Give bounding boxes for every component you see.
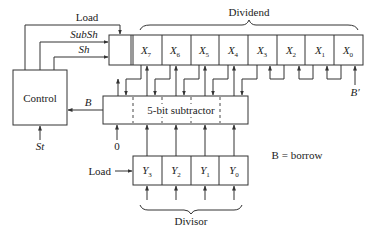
- cell-x0: X0: [342, 44, 354, 59]
- divisor-load-signal: Load: [88, 165, 132, 177]
- sh-label: Sh: [79, 43, 91, 55]
- cell-x7: X7: [140, 44, 152, 59]
- control-block: Control: [13, 70, 67, 125]
- cell-y0: Y0: [229, 164, 239, 179]
- borrow-label: B: [85, 96, 92, 108]
- dividend-register: X7 X6 X5 X4 X3 X2 X1 X0: [109, 35, 363, 65]
- dividend-label: Dividend: [229, 6, 270, 18]
- cell-x1: X1: [314, 44, 326, 59]
- borrow-bar-label: B′: [350, 86, 360, 98]
- divisor-subtractor-wires: [147, 125, 234, 156]
- subtractor-block: 5-bit subtractor: [103, 96, 248, 124]
- divisor-label: Divisor: [175, 215, 208, 227]
- start-label: St: [36, 140, 46, 152]
- cell-y2: Y2: [171, 164, 181, 179]
- subsh-signal: SubSh: [40, 28, 108, 70]
- subsh-label: SubSh: [70, 28, 98, 40]
- register-subtractor-wires: B′: [118, 65, 360, 98]
- dividend-brace: Dividend: [140, 6, 358, 30]
- divider-diagram: Control St Load SubSh Sh Dividend X7: [0, 0, 374, 230]
- divisor-brace: Divisor: [140, 205, 242, 227]
- load-label: Load: [76, 11, 99, 23]
- divisor-load-label: Load: [88, 165, 111, 177]
- cell-x6: X6: [169, 44, 181, 59]
- cell-x5: X5: [198, 44, 210, 59]
- start-signal: St: [36, 126, 46, 152]
- zero-label: 0: [114, 140, 120, 152]
- cell-y3: Y3: [142, 164, 152, 179]
- control-label: Control: [23, 92, 57, 104]
- sh-signal: Sh: [54, 43, 108, 70]
- cell-y1: Y1: [200, 164, 210, 179]
- cell-x2: X2: [285, 44, 297, 59]
- divisor-register: Y3 Y2 Y1 Y0: [133, 156, 248, 185]
- borrow-legend: B = borrow: [272, 149, 323, 161]
- divisor-inputs: [147, 186, 234, 200]
- cell-x4: X4: [227, 44, 239, 59]
- borrow-signal: B: [68, 96, 103, 110]
- load-signal: Load: [25, 11, 120, 70]
- cell-x3: X3: [256, 44, 268, 59]
- subtractor-label: 5-bit subtractor: [147, 104, 215, 116]
- zero-input: 0: [114, 125, 120, 152]
